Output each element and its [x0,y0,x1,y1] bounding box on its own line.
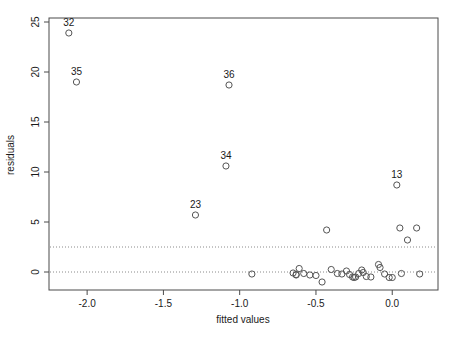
x-axis-title: fitted values [216,314,269,325]
data-point [319,279,325,285]
data-point [307,272,313,278]
data-point [414,225,420,231]
x-tick-label: -2.0 [79,298,97,309]
y-tick-label: 20 [30,66,41,78]
data-point [66,30,72,36]
x-tick-label: 0.0 [385,298,399,309]
data-point [296,265,302,271]
point-label: 34 [220,150,232,161]
data-point [192,212,198,218]
residuals-vs-fitted-plot: 323536342313 -2.0-1.5-1.0-0.50.005101520… [0,0,459,340]
plot-border [49,18,438,290]
point-label: 23 [190,199,202,210]
axis-ticks [44,22,392,295]
point-label: 32 [63,17,75,28]
x-tick-label: -1.0 [231,298,249,309]
y-tick-label: 25 [30,16,41,28]
data-point [223,163,229,169]
y-tick-label: 10 [30,166,41,178]
x-tick-label: -1.5 [155,298,173,309]
reference-lines [50,247,437,272]
data-point [73,79,79,85]
point-labels: 323536342313 [63,17,403,210]
data-point [397,225,403,231]
y-tick-label: 5 [30,219,41,225]
point-label: 35 [71,66,83,77]
y-axis-title: residuals [5,135,16,175]
data-point [404,237,410,243]
data-point [328,266,334,272]
plot-canvas: 323536342313 -2.0-1.5-1.0-0.50.005101520… [0,0,459,340]
tick-labels: -2.0-1.5-1.0-0.50.00510152025 [30,16,400,309]
data-point [324,227,330,233]
data-point [394,182,400,188]
data-point [301,270,307,276]
data-point [226,82,232,88]
y-tick-label: 15 [30,116,41,128]
x-tick-label: -0.5 [307,298,325,309]
y-tick-label: 0 [30,269,41,275]
plot-frame [49,18,438,290]
data-point [313,272,319,278]
data-point [398,270,404,276]
point-label: 13 [391,169,403,180]
point-label: 36 [223,69,235,80]
data-point [368,274,374,280]
